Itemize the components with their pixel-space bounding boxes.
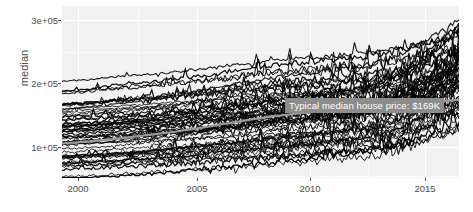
series-lines xyxy=(62,6,459,178)
x-tick-label-2015: 2015 xyxy=(414,183,435,194)
x-tick-label-2010: 2010 xyxy=(299,183,320,194)
y-tick-mark-1e05 xyxy=(58,147,61,148)
y-tick-label-2e05: 2e+05 xyxy=(14,78,58,89)
x-tick-mark-2005 xyxy=(197,178,198,181)
x-tick-label-2005: 2005 xyxy=(186,183,207,194)
y-tick-mark-2e05 xyxy=(58,83,61,84)
y-tick-label-1e05: 1e+05 xyxy=(14,142,58,153)
y-tick-label-3e05: 3e+05 xyxy=(14,15,58,26)
x-tick-label-2000: 2000 xyxy=(67,183,88,194)
x-axis-ticks: 2000 2005 2010 2015 xyxy=(62,178,459,208)
chart-container: median 3e+05 2e+05 1e+05 Typical medi xyxy=(0,0,473,212)
plot-panel: Typical median house price: $169K xyxy=(62,6,459,178)
x-tick-mark-2010 xyxy=(310,178,311,181)
x-tick-mark-2015 xyxy=(425,178,426,181)
annotation-typical-price: Typical median house price: $169K xyxy=(285,98,444,113)
y-tick-mark-3e05 xyxy=(58,20,61,21)
x-tick-mark-2000 xyxy=(78,178,79,181)
y-axis-ticks: 3e+05 2e+05 1e+05 xyxy=(8,0,58,212)
